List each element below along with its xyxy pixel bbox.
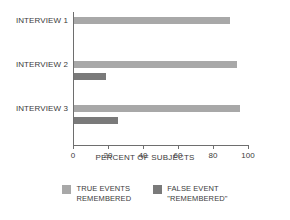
chart-figure: BRYAN CHRISTIE 020406080100 PERCENT OF S… (0, 0, 290, 220)
legend-label-false-event: FALSE EVENT "REMEMBERED" (167, 184, 227, 203)
legend-label-true-events-line1: TRUE EVENTS (76, 184, 130, 193)
x-axis-tick (178, 145, 179, 149)
x-axis-tick (73, 145, 74, 149)
credit-label: BRYAN CHRISTIE (277, 0, 289, 6)
legend-swatch-icon-true-events (62, 185, 71, 194)
category-label: INTERVIEW 1 (16, 16, 68, 25)
chart-legend: TRUE EVENTS REMEMBERED FALSE EVENT "REME… (0, 184, 290, 203)
legend-label-false-event-line2: "REMEMBERED" (167, 194, 227, 203)
x-axis-tick (108, 145, 109, 149)
x-axis-title: PERCENT OF SUBJECTS (0, 153, 290, 162)
bar (74, 73, 106, 80)
x-axis-tick (248, 145, 249, 149)
category-label: INTERVIEW 3 (16, 104, 68, 113)
x-axis-tick (213, 145, 214, 149)
bar (74, 117, 118, 124)
bar (74, 61, 237, 68)
bar (74, 105, 240, 112)
x-axis-line (73, 145, 248, 146)
legend-label-true-events: TRUE EVENTS REMEMBERED (76, 184, 131, 203)
plot-area: 020406080100 (73, 12, 248, 145)
category-label: INTERVIEW 2 (16, 60, 68, 69)
legend-item-false-event: FALSE EVENT "REMEMBERED" (153, 184, 227, 203)
bar (74, 17, 230, 24)
x-axis-tick (143, 145, 144, 149)
legend-swatch-icon-false-event (153, 185, 162, 194)
legend-label-true-events-line2: REMEMBERED (76, 194, 131, 203)
legend-label-false-event-line1: FALSE EVENT (167, 184, 219, 193)
legend-item-true-events: TRUE EVENTS REMEMBERED (62, 184, 131, 203)
